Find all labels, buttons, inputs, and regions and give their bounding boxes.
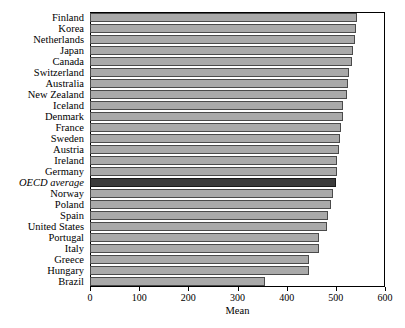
bar (90, 101, 343, 110)
bar (90, 200, 331, 209)
bar (90, 134, 340, 143)
x-axis-tick-label: 300 (218, 292, 258, 303)
category-label: Germany (45, 166, 84, 177)
bar-row (90, 155, 385, 166)
bar-row (90, 34, 385, 45)
category-label: Switzerland (34, 67, 84, 78)
bar-row (90, 232, 385, 243)
bar-row (90, 144, 385, 155)
bar-row (90, 78, 385, 89)
bar (90, 123, 341, 132)
bar-row (90, 254, 385, 265)
x-axis-tick-label: 400 (267, 292, 307, 303)
category-label: France (55, 122, 84, 133)
category-label: Australia (46, 78, 85, 89)
bar-row (90, 122, 385, 133)
bar-row (90, 166, 385, 177)
category-label: United States (28, 221, 84, 232)
x-axis-tick-label: 200 (168, 292, 208, 303)
bar (90, 90, 347, 99)
bar (90, 167, 337, 176)
bar-row (90, 133, 385, 144)
bar-row (90, 265, 385, 276)
category-axis-labels: FinlandKoreaNetherlandsJapanCanadaSwitze… (0, 12, 88, 287)
category-label: Sweden (51, 133, 84, 144)
bar-row (90, 100, 385, 111)
category-label: New Zealand (28, 89, 84, 100)
category-label: Norway (50, 188, 84, 199)
category-label: Finland (52, 12, 84, 23)
bar-row (90, 210, 385, 221)
category-label: Japan (60, 45, 84, 56)
x-axis-tick-label: 0 (70, 292, 110, 303)
category-label: Greece (54, 254, 84, 265)
x-axis-title: Mean (90, 305, 385, 316)
x-axis-tick (336, 287, 337, 291)
bar-row (90, 243, 385, 254)
bar (90, 68, 349, 77)
bar (90, 277, 265, 286)
x-axis-tick (287, 287, 288, 291)
category-label: Ireland (54, 155, 84, 166)
bar-row (90, 12, 385, 23)
category-label: Portugal (48, 232, 84, 243)
bar (90, 189, 333, 198)
category-label: Spain (60, 210, 84, 221)
x-axis-tick-label: 500 (316, 292, 356, 303)
bar-row (90, 45, 385, 56)
bar (90, 13, 357, 22)
bar-row (90, 276, 385, 287)
x-axis-tick (385, 287, 386, 291)
bar (90, 211, 328, 220)
bars-container (90, 12, 385, 287)
x-axis-tick (90, 287, 91, 291)
bar (90, 156, 337, 165)
bar-row (90, 177, 385, 188)
bar (90, 255, 309, 264)
category-label: Korea (58, 23, 84, 34)
bar (90, 266, 309, 275)
bar (90, 112, 343, 121)
bar-row (90, 199, 385, 210)
category-label: Canada (53, 56, 85, 67)
bar (90, 178, 336, 187)
bar (90, 57, 352, 66)
category-label: Poland (55, 199, 84, 210)
bar (90, 233, 319, 242)
category-label: OECD average (19, 177, 84, 188)
category-label: Hungary (47, 265, 84, 276)
bar (90, 145, 339, 154)
bar-chart: FinlandKoreaNetherlandsJapanCanadaSwitze… (0, 0, 405, 328)
category-label: Netherlands (33, 34, 84, 45)
x-axis-tick-label: 600 (365, 292, 405, 303)
category-label: Austria (53, 144, 84, 155)
category-label: Italy (65, 243, 84, 254)
bar (90, 46, 353, 55)
bar (90, 222, 327, 231)
x-axis-tick (238, 287, 239, 291)
bar (90, 35, 355, 44)
bar-row (90, 67, 385, 78)
category-label: Denmark (45, 111, 84, 122)
bar-row (90, 188, 385, 199)
category-label: Iceland (53, 100, 84, 111)
x-axis-tick (188, 287, 189, 291)
bar (90, 79, 348, 88)
bar-row (90, 221, 385, 232)
bar (90, 244, 319, 253)
bar-row (90, 111, 385, 122)
x-axis-tick (139, 287, 140, 291)
x-axis-tick-label: 100 (119, 292, 159, 303)
bar-row (90, 23, 385, 34)
bar (90, 24, 356, 33)
category-label: Brazil (58, 276, 84, 287)
bar-row (90, 89, 385, 100)
bar-row (90, 56, 385, 67)
